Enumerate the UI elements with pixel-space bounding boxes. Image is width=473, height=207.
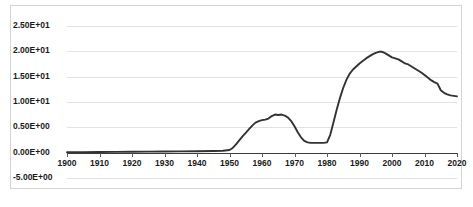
series-line-chart bbox=[11, 6, 463, 190]
chart-frame: 2.50E+012.00E+011.50E+011.00E+010.50E+00… bbox=[10, 5, 462, 189]
plot-area: 2.50E+012.00E+011.50E+011.00E+010.50E+00… bbox=[11, 6, 463, 190]
series-1-line bbox=[67, 52, 457, 152]
cut-off-caption-strip bbox=[0, 200, 473, 207]
